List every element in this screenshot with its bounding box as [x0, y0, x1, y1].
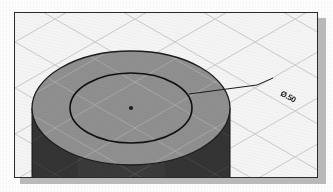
center-point-marker: [129, 106, 133, 110]
figure-page: Ø.50: [0, 0, 333, 192]
cad-viewport[interactable]: Ø.50: [14, 12, 318, 178]
cylinder-model[interactable]: [15, 13, 317, 177]
